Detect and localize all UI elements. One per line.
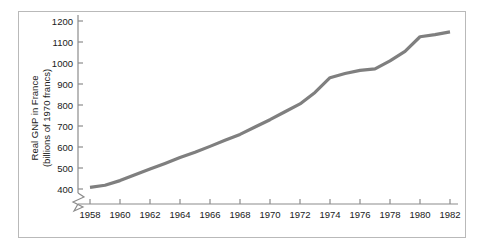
- x-tick-label: 1962: [139, 209, 160, 220]
- y-tick-label: 1200: [52, 16, 73, 27]
- x-axis-tick-labels: 1958196019621964196619681970197219741976…: [79, 209, 460, 220]
- y-tick-label: 500: [57, 163, 73, 174]
- x-tick-label: 1978: [379, 209, 400, 220]
- x-tick-label: 1982: [439, 209, 460, 220]
- y-axis-title-line-2: (billions of 1970 francs): [41, 69, 52, 167]
- gnp-data-line: [90, 32, 450, 187]
- y-axis-title: Real GNP in France (billions of 1970 fra…: [29, 69, 52, 167]
- x-tick-label: 1970: [259, 209, 280, 220]
- y-tick-label: 1100: [53, 37, 73, 48]
- x-tick-label: 1976: [349, 209, 370, 220]
- x-tick-marks: [90, 199, 450, 204]
- x-tick-label: 1964: [169, 209, 190, 220]
- x-tick-label: 1960: [109, 209, 130, 220]
- x-tick-label: 1974: [319, 209, 340, 220]
- y-tick-label: 900: [57, 79, 73, 90]
- y-tick-label: 700: [57, 121, 73, 132]
- y-axis-tick-labels: 400500600700800900100011001200: [52, 16, 73, 195]
- y-tick-label: 600: [57, 142, 73, 153]
- x-tick-label: 1972: [289, 209, 310, 220]
- line-chart: 400500600700800900100011001200 195819601…: [0, 0, 483, 250]
- y-axis-title-line-1: Real GNP in France: [29, 76, 40, 161]
- x-tick-label: 1980: [409, 209, 430, 220]
- y-tick-label: 400: [57, 184, 73, 195]
- axes: [73, 15, 458, 211]
- y-tick-label: 1000: [52, 58, 73, 69]
- y-tick-label: 800: [57, 100, 73, 111]
- x-tick-label: 1958: [79, 209, 100, 220]
- y-tick-marks: [78, 21, 83, 189]
- x-tick-label: 1968: [229, 209, 250, 220]
- x-tick-label: 1966: [199, 209, 220, 220]
